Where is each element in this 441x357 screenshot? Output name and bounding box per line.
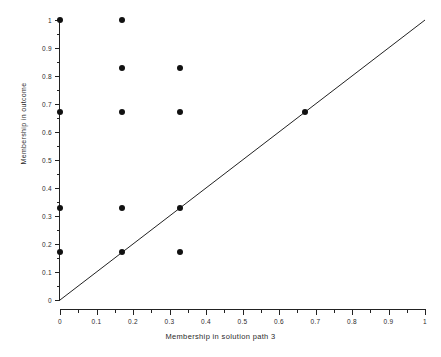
data-point	[119, 249, 125, 255]
x-axis-tick	[206, 310, 207, 315]
y-axis-tick-label: 0.9	[42, 45, 52, 52]
x-axis-tick-label: 0	[58, 318, 62, 325]
data-point	[57, 205, 63, 211]
data-point	[119, 65, 125, 71]
x-axis-tick	[60, 310, 61, 315]
y-axis-tick-label: 0	[48, 297, 52, 304]
x-axis-tick	[97, 310, 98, 315]
x-axis-minor-tick	[78, 310, 79, 313]
x-axis-minor-tick	[407, 310, 408, 313]
y-axis-tick	[55, 300, 60, 301]
x-axis-tick-label: 0.7	[311, 318, 321, 325]
x-axis-minor-tick	[151, 310, 152, 313]
data-point	[302, 109, 308, 115]
x-axis-tick	[316, 310, 317, 315]
x-axis-tick-label: 1	[423, 318, 427, 325]
data-point	[177, 249, 183, 255]
scatter-plot-figure: 00.10.20.30.40.50.60.70.80.91 Membership…	[0, 0, 441, 357]
y-axis-tick-label: 0.3	[42, 213, 52, 220]
x-axis-tick-label: 0.5	[238, 318, 248, 325]
x-axis-minor-tick	[297, 310, 298, 313]
data-point	[57, 109, 63, 115]
x-axis-tick	[425, 310, 426, 315]
x-axis-tick	[243, 310, 244, 315]
x-axis-ticks	[60, 310, 425, 316]
y-axis-tick-label: 1	[48, 17, 52, 24]
data-point	[57, 249, 63, 255]
x-axis-tick	[352, 310, 353, 315]
x-axis-tick	[279, 310, 280, 315]
x-axis-minor-tick	[334, 310, 335, 313]
data-point	[119, 205, 125, 211]
data-point	[177, 109, 183, 115]
y-axis-title: Membership in outcome	[20, 44, 27, 204]
x-axis-tick-label: 0.9	[384, 318, 394, 325]
x-axis-tick-label: 0.4	[201, 318, 211, 325]
x-axis-tick-label: 0.1	[92, 318, 102, 325]
y-axis-tick-label: 0.5	[42, 157, 52, 164]
y-axis-tick-label: 0.4	[42, 185, 52, 192]
x-axis-tick-label: 0.3	[165, 318, 175, 325]
x-axis-minor-tick	[224, 310, 225, 313]
x-axis-minor-tick	[115, 310, 116, 313]
y-axis-tick-label: 0.1	[42, 269, 52, 276]
data-point	[119, 17, 125, 23]
data-point	[177, 205, 183, 211]
y-axis-tick-label: 0.7	[42, 101, 52, 108]
data-point	[177, 65, 183, 71]
x-axis-minor-tick	[370, 310, 371, 313]
y-axis-tick-label: 0.6	[42, 129, 52, 136]
x-axis-tick-label: 0.2	[128, 318, 138, 325]
x-axis-tick	[133, 310, 134, 315]
x-axis-tick	[389, 310, 390, 315]
x-axis-title: Membership in solution path 3	[0, 332, 441, 341]
x-axis-tick	[170, 310, 171, 315]
x-axis-minor-tick	[188, 310, 189, 313]
x-axis-tick-labels: 00.10.20.30.40.50.60.70.80.91	[60, 318, 425, 330]
y-axis-tick-label: 0.2	[42, 241, 52, 248]
x-axis-minor-tick	[261, 310, 262, 313]
data-point	[119, 109, 125, 115]
x-axis-tick-label: 0.8	[347, 318, 357, 325]
plot-area	[60, 20, 425, 300]
data-point	[57, 17, 63, 23]
x-axis-tick-label: 0.6	[274, 318, 284, 325]
y-axis-tick-label: 0.8	[42, 73, 52, 80]
